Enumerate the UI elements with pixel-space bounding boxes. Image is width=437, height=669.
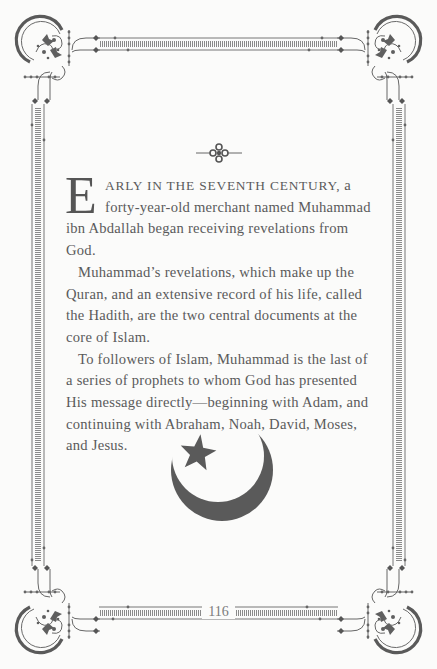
page-number: 116 — [0, 604, 437, 620]
corner-ornament-top-right — [337, 16, 421, 104]
crescent-and-star-icon — [160, 410, 280, 525]
lead-in-smallcaps: ARLY IN THE SEVENTH CENTURY, — [105, 178, 340, 193]
book-page: EARLY IN THE SEVENTH CENTURY, a forty-ye… — [0, 0, 437, 669]
fleuron-icon — [194, 142, 244, 164]
drop-cap: E — [65, 177, 97, 217]
section-ornament — [0, 141, 437, 165]
paragraph-2: Muhammad’s revelations, which make up th… — [66, 262, 373, 349]
corner-ornament-top-left — [16, 16, 100, 104]
opening-paragraph: EARLY IN THE SEVENTH CENTURY, a forty-ye… — [66, 175, 373, 262]
